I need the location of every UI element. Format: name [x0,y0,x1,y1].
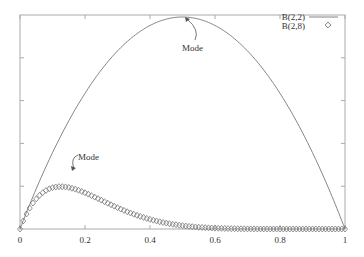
x-tick-label: 0.4 [144,235,156,245]
svg-text:Mode: Mode [78,152,99,162]
x-tick-labels: 00.20.40.60.81 [18,235,348,245]
annotation-mode-b22: Mode [182,17,203,53]
svg-text:Mode: Mode [182,43,203,53]
x-tick-label: 0.6 [209,235,221,245]
annotation-mode-b28: Mode [71,152,99,171]
x-tick-label: 0 [18,235,23,245]
beta-distribution-chart: 00.20.40.60.81 Mode Mode B(2,2) B(2,8) [0,0,364,257]
x-tick-label: 0.2 [79,235,90,245]
svg-text:B(2,8): B(2,8) [282,21,305,31]
series-b28-markers [18,184,348,232]
x-tick-label: 0.8 [274,235,286,245]
x-tick-label: 1 [343,235,348,245]
